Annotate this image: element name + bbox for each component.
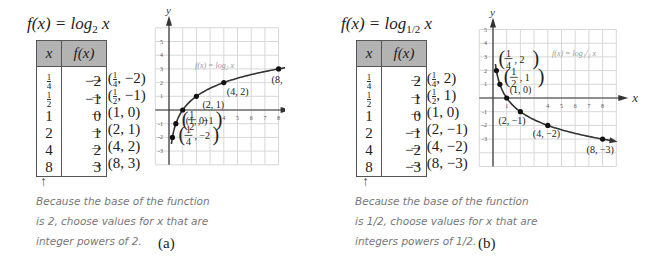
data-point [518, 109, 523, 114]
x-value: 12 [357, 90, 382, 108]
x-tick-label: 4 [222, 115, 225, 121]
up-arrow-icon: ↑ [40, 174, 47, 190]
data-point [194, 94, 199, 99]
data-label-y: , 2 [514, 54, 524, 65]
up-arrow-icon: ↑ [362, 174, 369, 190]
y-tick-label: -2 [158, 134, 163, 140]
data-label: (1, 0) [510, 84, 532, 96]
y-tick-label: -1 [158, 121, 163, 127]
note-line: is 2, choose values for x that are [36, 211, 210, 231]
x-tick-label: 8 [277, 115, 280, 121]
x-tick-label: 5 [236, 115, 239, 121]
data-point [494, 68, 499, 73]
data-label-num: 1 [506, 48, 511, 59]
explanation-note-a: Because the base of the function is 2, c… [36, 191, 210, 251]
x-tick-label: 5 [560, 103, 563, 109]
y-tick-label: 4 [160, 52, 163, 58]
note-line: Because the base of the function [355, 191, 538, 211]
data-label: (8, 3) [272, 74, 285, 86]
x-axis-label: x [631, 90, 638, 105]
y-tick-label: -2 [482, 122, 487, 128]
data-point [221, 80, 226, 85]
data-label-y: , 1 [520, 72, 530, 83]
x-value: 4 [37, 142, 62, 159]
ordered-pair: → (14, 2) [408, 70, 468, 87]
data-point [276, 66, 281, 71]
y-tick-label: 1 [160, 93, 163, 99]
data-label: (8, −3) [587, 144, 614, 156]
function-title-a: f(x) = log2 x [27, 14, 110, 35]
y-tick-label: -3 [158, 148, 163, 154]
x-tick-label: 4 [546, 103, 549, 109]
ordered-pair: → (4, −2) [408, 138, 468, 155]
caption-a: (a) [158, 235, 175, 252]
x-value: 2 [37, 125, 62, 142]
data-label: (2, −1) [498, 115, 525, 127]
function-label: f(x) = log₁/₂ x [552, 49, 597, 58]
data-point [173, 121, 178, 126]
data-label: (4, −2) [533, 128, 560, 140]
data-label-paren: ) [216, 108, 223, 131]
data-label-y: , −2 [194, 130, 210, 141]
data-label-num: 1 [511, 66, 516, 77]
function-title-b: f(x) = log1/2 x [341, 14, 432, 35]
data-point [170, 135, 175, 140]
x-value: 8 [357, 159, 382, 177]
data-label-den: 4 [186, 136, 191, 147]
ordered-pair: → (14, −2) [89, 70, 146, 87]
y-axis-arrow-icon [490, 18, 496, 28]
y-tick-label: 5 [484, 27, 487, 33]
x-value: 1 [357, 108, 382, 125]
x-value: 14 [357, 67, 382, 91]
y-tick-label: -1 [482, 109, 487, 115]
data-point [504, 95, 509, 100]
ordered-pairs-b: → (14, 2)→ (12, 1)→ (1, 0)→ (2, −1)→ (4,… [408, 70, 468, 172]
data-label: (1, 0) [186, 115, 208, 127]
column-header: x [37, 41, 62, 67]
column-header: f(x) [382, 41, 427, 67]
y-axis-arrow-icon [166, 16, 172, 26]
x-tick-label: 7 [587, 103, 590, 109]
note-line: Because the base of the function [36, 191, 210, 211]
y-axis-label: y [489, 8, 495, 18]
y-tick-label: 4 [484, 40, 487, 46]
ordered-pair: → (4, 2) [89, 138, 146, 155]
data-label-paren: ) [538, 65, 545, 88]
ordered-pair: → (1, 0) [408, 104, 468, 121]
ordered-pairs-a: → (14, −2)→ (12, −1)→ (1, 0)→ (2, 1)→ (4… [89, 70, 146, 172]
y-tick-label: 3 [160, 66, 163, 72]
function-label: f(x) = log₂ x [195, 61, 235, 70]
data-point [545, 123, 550, 128]
note-line: is 1/2, choose values for x that are [355, 211, 538, 231]
x-value: 1 [37, 108, 62, 125]
ordered-pair: → (8, 3) [89, 155, 146, 172]
data-label: (2, 1) [202, 99, 224, 111]
x-value: 4 [357, 142, 382, 159]
data-label: (4, 2) [227, 86, 249, 98]
y-tick-label: 3 [484, 54, 487, 60]
y-axis-label: y [165, 8, 171, 16]
x-tick-label: 7 [263, 115, 266, 121]
y-tick-label: 2 [484, 68, 487, 74]
y-tick-label: 1 [484, 81, 487, 87]
x-value: 14 [37, 67, 62, 91]
data-point [600, 137, 605, 142]
ordered-pair: → (12, −1) [89, 87, 146, 104]
column-header: f(x) [62, 41, 107, 67]
graph-b: xy14567854321-1-2-3(14, 2)(12, 1)(1, 0)(… [470, 8, 659, 168]
data-point [180, 107, 185, 112]
note-line: integers powers of 1/2. [355, 231, 538, 251]
data-point [497, 82, 502, 87]
x-axis-arrow-icon [618, 95, 628, 101]
y-tick-label: 2 [160, 80, 163, 86]
column-header: x [357, 41, 382, 67]
x-tick-label: 8 [601, 103, 604, 109]
explanation-note-b: Because the base of the function is 1/2,… [355, 191, 538, 251]
y-tick-label: -3 [482, 136, 487, 142]
ordered-pair: → (2, −1) [408, 121, 468, 138]
ordered-pair: → (2, 1) [89, 121, 146, 138]
ordered-pair: → (8, −3) [408, 155, 468, 172]
x-axis-arrow-icon [281, 107, 285, 113]
caption-b: (b) [478, 235, 496, 252]
x-tick-label: 6 [250, 115, 253, 121]
